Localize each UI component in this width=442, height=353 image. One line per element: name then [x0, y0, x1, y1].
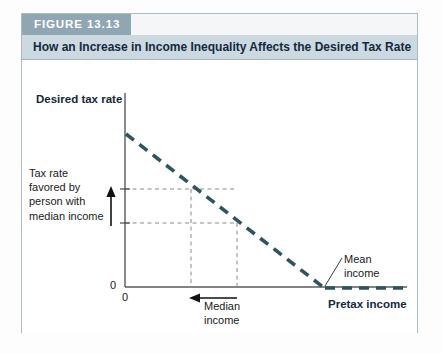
figure-number-tag: FIGURE 13.13 — [22, 14, 131, 35]
y-axis-origin-label: 0 — [110, 279, 116, 291]
tax-rate-favored-annotation: Tax rate favored by person with median i… — [29, 166, 111, 223]
figure-root: FIGURE 13.13 How an Increase in Income I… — [0, 0, 442, 353]
figure-title: How an Increase in Income Inequality Aff… — [33, 35, 411, 60]
mean-income-leader-line — [325, 258, 342, 286]
y-axis-label: Desired tax rate — [36, 93, 122, 105]
chart-plot-area: Desired tax rate Pretax income Tax rate … — [22, 60, 417, 333]
mean-income-annotation: Mean income — [344, 252, 404, 280]
tax-rate-annotation-line-2: favored by — [29, 180, 111, 194]
tax-rate-annotation-line-4: median income — [29, 209, 111, 223]
x-axis-origin-label: 0 — [122, 291, 128, 303]
tax-rate-annotation-line-3: person with — [29, 194, 111, 208]
mean-income-line-1: Mean — [344, 252, 404, 266]
figure-card: FIGURE 13.13 How an Increase in Income I… — [21, 13, 418, 333]
figure-top-strip: FIGURE 13.13 — [22, 14, 417, 36]
median-income-line-2: income — [204, 313, 264, 327]
median-income-line-1: Median — [204, 299, 264, 313]
mean-income-line-2: income — [344, 266, 404, 280]
median-income-annotation: Median income — [204, 299, 264, 327]
desired-tax-rate-curve — [126, 134, 323, 287]
x-axis-label: Pretax income — [328, 298, 407, 310]
tax-rate-annotation-line-1: Tax rate — [29, 166, 111, 180]
figure-title-band: How an Increase in Income Inequality Aff… — [22, 35, 417, 60]
